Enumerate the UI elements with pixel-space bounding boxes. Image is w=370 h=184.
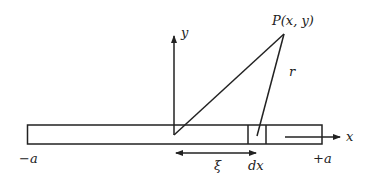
point-p-label: P(x, y)	[271, 13, 314, 28]
r-distance-line	[257, 34, 284, 136]
rod-left-end-label: −a	[19, 151, 38, 166]
dx-element-label: dx	[248, 158, 264, 173]
rod-field-diagram: P(x, y) y r x −a +a ξ dx	[0, 0, 370, 184]
xi-offset-label: ξ	[214, 158, 222, 173]
x-axis-label: x	[346, 129, 354, 144]
rod-right-end-label: +a	[313, 151, 332, 166]
origin-to-p-line	[174, 34, 284, 135]
y-axis-label: y	[180, 25, 189, 40]
r-distance-label: r	[289, 64, 296, 79]
